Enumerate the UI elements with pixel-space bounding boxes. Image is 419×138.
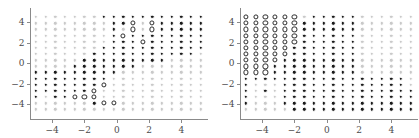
scatter-point [273, 107, 277, 111]
scatter-point [169, 46, 173, 50]
scatter-point [43, 95, 47, 99]
scatter-point [121, 27, 125, 31]
scatter-point [34, 64, 38, 68]
x-tick-label: −4 [45, 126, 58, 135]
scatter-point [111, 101, 116, 106]
scatter-point [43, 76, 47, 80]
y-tick [27, 22, 30, 23]
scatter-point [82, 46, 86, 50]
scatter-point [199, 64, 203, 68]
scatter-point [272, 15, 277, 20]
scatter-point [379, 107, 383, 111]
scatter-point [92, 21, 96, 25]
scatter-point [189, 70, 193, 74]
scatter-point [302, 64, 306, 68]
scatter-point [34, 76, 38, 80]
scatter-point [331, 21, 335, 25]
scatter-point [111, 21, 115, 25]
scatter-point [263, 33, 268, 38]
scatter-point [399, 15, 403, 19]
scatter-point [331, 64, 335, 68]
scatter-point [53, 70, 57, 74]
x-tick [181, 120, 182, 123]
scatter-point [253, 27, 258, 32]
scatter-point [283, 58, 287, 62]
scatter-point [243, 58, 248, 63]
scatter-point [389, 89, 393, 93]
scatter-point [379, 70, 383, 74]
scatter-point [189, 27, 193, 31]
scatter-point [312, 27, 316, 31]
scatter-point [121, 52, 125, 56]
scatter-point [389, 21, 393, 25]
scatter-point [379, 83, 383, 87]
scatter-point [169, 64, 173, 68]
scatter-point [34, 40, 38, 44]
scatter-point [409, 46, 413, 50]
scatter-point [199, 27, 203, 31]
scatter-point [283, 95, 287, 99]
scatter-point [169, 95, 173, 99]
scatter-point [199, 40, 203, 44]
scatter-point [292, 83, 296, 87]
scatter-point [399, 83, 403, 87]
scatter-point [283, 107, 287, 111]
scatter-point [389, 83, 393, 87]
scatter-point [121, 107, 125, 111]
scatter-point [199, 83, 203, 87]
scatter-point [370, 58, 374, 62]
scatter-point [341, 107, 345, 111]
scatter-point [253, 33, 258, 38]
scatter-point [34, 52, 38, 56]
scatter-point [160, 76, 164, 80]
scatter-point [331, 83, 335, 87]
scatter-point [111, 58, 115, 62]
scatter-point [389, 27, 393, 31]
scatter-point [140, 83, 144, 87]
x-tick-label: 0 [324, 126, 330, 135]
scatter-point [199, 33, 203, 37]
scatter-point [130, 27, 135, 32]
scatter-point [169, 52, 173, 56]
scatter-point [92, 76, 96, 80]
scatter-point [140, 58, 144, 62]
scatter-point [169, 21, 173, 25]
y-tick [27, 84, 30, 85]
scatter-point [131, 83, 135, 87]
panel-right: −4−2024−4−2024 [210, 0, 419, 138]
scatter-point [272, 51, 277, 56]
scatter-point [34, 33, 38, 37]
scatter-point [331, 46, 335, 50]
scatter-point [283, 64, 287, 68]
scatter-point [399, 33, 403, 37]
scatter-point [34, 27, 38, 31]
scatter-point [321, 33, 325, 37]
scatter-point [169, 101, 173, 105]
scatter-point [409, 83, 413, 87]
scatter-point [34, 95, 38, 99]
scatter-point [73, 27, 77, 31]
scatter-point [282, 45, 287, 50]
y-tick [27, 63, 30, 64]
scatter-point [272, 39, 277, 44]
scatter-point [331, 52, 335, 56]
scatter-point [243, 70, 248, 75]
scatter-point [34, 21, 38, 25]
scatter-point [399, 27, 403, 31]
scatter-point [350, 40, 354, 44]
scatter-point [350, 89, 354, 93]
scatter-point [263, 51, 268, 56]
scatter-point [302, 70, 306, 74]
y-tick [27, 104, 30, 105]
scatter-point [111, 40, 115, 44]
scatter-point [43, 40, 47, 44]
scatter-point [263, 107, 267, 111]
scatter-point [360, 64, 364, 68]
scatter-point [92, 101, 96, 105]
scatter-point [312, 15, 316, 19]
x-tick [84, 120, 85, 123]
scatter-point [312, 70, 316, 74]
scatter-point [131, 64, 135, 68]
scatter-point [150, 101, 154, 105]
scatter-point [283, 89, 287, 93]
